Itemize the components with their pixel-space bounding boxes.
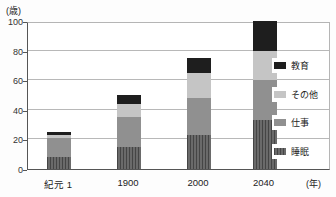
y-axis-unit-label: (歳) <box>6 4 21 17</box>
legend-swatch-その他 <box>274 91 286 98</box>
x-category-label: 2040 <box>234 177 294 188</box>
stacked-bar-chart: (歳) 020406080100 紀元 1190020002040 (年) 教育… <box>0 0 336 197</box>
bar-segment-仕事 <box>117 117 141 147</box>
legend-label: その他 <box>291 88 318 101</box>
y-tick-label-60: 60 <box>0 76 23 86</box>
y-tick-mark <box>23 170 27 171</box>
bar-segment-教育 <box>253 21 277 51</box>
legend-item-睡眠: 睡眠 <box>272 144 311 159</box>
gridline-60 <box>28 79 329 80</box>
y-tick-label-100: 100 <box>0 17 23 27</box>
bar-segment-仕事 <box>47 138 71 157</box>
x-category-label: 2000 <box>168 177 228 188</box>
y-tick-mark <box>23 140 27 141</box>
y-tick-mark <box>23 81 27 82</box>
legend-item-仕事: 仕事 <box>272 115 311 130</box>
bar-2000 <box>187 58 211 169</box>
legend-swatch-仕事 <box>274 119 286 126</box>
legend-item-教育: 教育 <box>272 58 311 73</box>
bar-紀元 1 <box>47 132 71 169</box>
legend-label: 教育 <box>291 59 309 72</box>
y-tick-mark <box>23 111 27 112</box>
x-category-label: 1900 <box>98 177 158 188</box>
gridline-80 <box>28 50 329 51</box>
y-tick-label-80: 80 <box>0 47 23 57</box>
bar-segment-その他 <box>117 104 141 117</box>
y-tick-label-40: 40 <box>0 106 23 116</box>
bar-segment-教育 <box>117 95 141 104</box>
y-tick-label-0: 0 <box>0 165 23 175</box>
x-axis-unit-label: (年) <box>306 177 321 190</box>
bar-segment-睡眠 <box>117 147 141 169</box>
gridline-40 <box>28 109 329 110</box>
y-tick-mark <box>23 22 27 23</box>
y-tick-mark <box>23 52 27 53</box>
legend-swatch-睡眠 <box>274 148 286 155</box>
bar-segment-その他 <box>187 73 211 98</box>
legend-label: 仕事 <box>291 116 309 129</box>
bar-segment-睡眠 <box>47 157 71 169</box>
legend-label: 睡眠 <box>291 145 309 158</box>
legend-item-その他: その他 <box>272 87 320 102</box>
gridline-20 <box>28 138 329 139</box>
x-category-label: 紀元 1 <box>28 177 88 191</box>
legend-swatch-教育 <box>274 62 286 69</box>
y-tick-label-20: 20 <box>0 135 23 145</box>
bar-segment-仕事 <box>187 98 211 135</box>
bar-1900 <box>117 95 141 169</box>
bar-segment-教育 <box>187 58 211 73</box>
bar-segment-睡眠 <box>187 135 211 169</box>
